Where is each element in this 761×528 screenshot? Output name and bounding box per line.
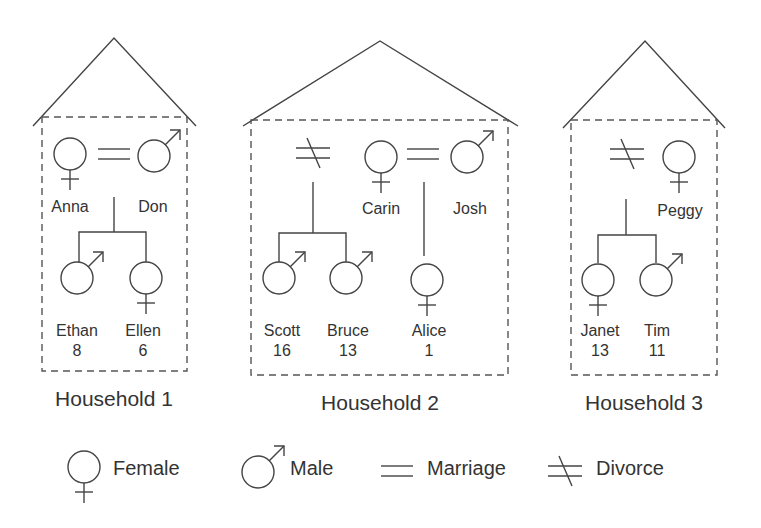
member-age: 8 (73, 342, 82, 359)
legend-label-divorce: Divorce (596, 457, 664, 479)
member-name: Josh (453, 200, 487, 217)
legend: Female Male Marriage Divorce (68, 446, 664, 503)
member-age: 16 (273, 342, 291, 359)
member-name: Carin (362, 200, 400, 217)
divorce-icon (296, 138, 330, 168)
member-name: Tim (644, 322, 670, 339)
household-title: Household 3 (585, 391, 703, 414)
ethan-male-icon (61, 252, 103, 294)
household-2: Carin Josh Scott 16 Bruce 13 Alice 1 Hou… (243, 41, 518, 414)
anna-female-icon (54, 138, 86, 190)
female-symbol-icon (68, 451, 100, 503)
marriage-icon (98, 149, 130, 159)
male-symbol-icon (242, 446, 284, 488)
member-name: Bruce (327, 322, 369, 339)
legend-label-female: Female (113, 457, 180, 479)
house-roof (563, 41, 725, 128)
marriage-icon (407, 149, 439, 159)
sibling-line (79, 232, 146, 262)
member-name: Anna (51, 198, 88, 215)
legend-label-male: Male (290, 457, 333, 479)
member-name: Don (138, 198, 167, 215)
family-households-diagram: Anna Don Ethan 8 Ellen 6 Household 1 Car… (0, 0, 761, 528)
bruce-male-icon (330, 252, 372, 294)
household-3: Peggy Janet 13 Tim 11 Household 3 (563, 41, 725, 414)
household-title: Household 2 (321, 391, 439, 414)
legend-label-marriage: Marriage (427, 457, 506, 479)
member-name: Peggy (657, 202, 702, 219)
household-title: Household 1 (55, 387, 173, 410)
josh-male-icon (451, 131, 493, 173)
member-name: Ethan (56, 322, 98, 339)
marriage-symbol-icon (381, 466, 413, 476)
member-age: 11 (649, 342, 666, 359)
sibling-line (279, 233, 346, 262)
member-name: Janet (580, 322, 620, 339)
janet-female-icon (582, 264, 614, 316)
house-roof (33, 38, 196, 126)
divorce-symbol-icon (548, 456, 582, 486)
tim-male-icon (640, 254, 682, 296)
member-name: Ellen (125, 322, 161, 339)
member-name: Alice (412, 322, 447, 339)
member-age: 6 (139, 342, 148, 359)
alice-female-icon (411, 264, 443, 316)
carin-female-icon (365, 141, 397, 193)
member-age: 13 (339, 342, 357, 359)
scott-male-icon (263, 252, 305, 294)
member-age: 1 (425, 342, 434, 359)
member-age: 13 (591, 342, 609, 359)
house-roof (243, 41, 518, 126)
member-name: Scott (264, 322, 301, 339)
ellen-female-icon (130, 262, 162, 314)
divorce-icon (610, 139, 644, 169)
household-1: Anna Don Ethan 8 Ellen 6 Household 1 (33, 38, 196, 410)
sibling-line (598, 235, 656, 263)
don-male-icon (138, 130, 180, 172)
peggy-female-icon (663, 141, 695, 193)
